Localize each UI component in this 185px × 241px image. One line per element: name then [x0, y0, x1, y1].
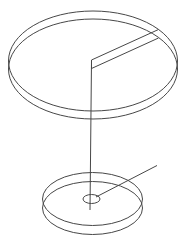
top-disk-slot-lower-edge [92, 38, 159, 69]
radius-pointer-line [96, 166, 157, 198]
top-disk-slot-upper-edge [92, 30, 159, 61]
lower-disk-lower-rim [43, 182, 143, 235]
top-disk-lower-rim [9, 19, 178, 119]
suspension-wire [90, 60, 92, 210]
wireframe-svg [0, 0, 185, 241]
top-disk-upper-rim [9, 11, 178, 111]
wireframe-diagram [0, 0, 185, 241]
